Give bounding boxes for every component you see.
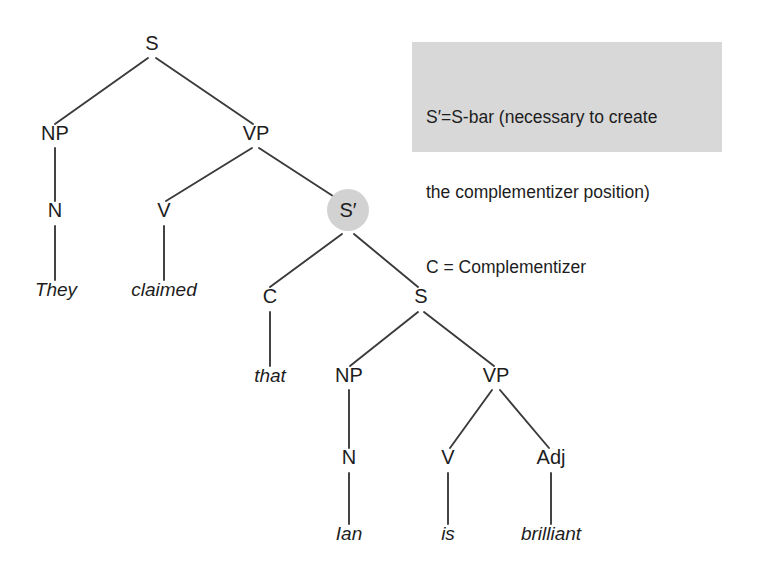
leaf-word-Ian: Ian <box>336 523 362 544</box>
node-NP1: NP <box>41 122 69 144</box>
branch-VP1-SBAR <box>259 148 336 198</box>
node-VP1: VP <box>243 122 270 144</box>
node-V1: V <box>157 199 171 221</box>
leaf-word-that: that <box>254 365 286 386</box>
branch-VP1-V1 <box>166 148 252 201</box>
node-N1: N <box>48 199 62 221</box>
legend-line-1: S′=S-bar (necessary to create <box>426 105 714 130</box>
node-SBAR: S′ <box>339 199 356 221</box>
leaf-word-is: is <box>441 523 455 544</box>
branch-VP2-V2 <box>450 390 492 448</box>
node-VP2: VP <box>483 364 510 386</box>
legend-line-3: C = Complementizer <box>426 255 714 280</box>
branch-S_root-NP1 <box>55 58 148 124</box>
branch-SBAR-S_emb <box>354 234 418 287</box>
branch-VP2-Adj1 <box>500 390 549 448</box>
node-Adj1: Adj <box>537 446 566 468</box>
node-C1: C <box>263 285 277 307</box>
branch-S_emb-NP2 <box>350 312 418 366</box>
legend-box: S′=S-bar (necessary to create the comple… <box>412 42 722 152</box>
leaf-word-They: They <box>35 279 79 300</box>
node-N2: N <box>342 446 356 468</box>
node-NP2: NP <box>335 364 363 386</box>
syntax-tree-figure: SNPVPNVS′TheyclaimedCSthatNPVPNVAdjIanis… <box>0 0 758 575</box>
node-V2: V <box>441 446 455 468</box>
leaf-word-claimed: claimed <box>131 279 198 300</box>
leaf-word-brilliant: brilliant <box>521 523 582 544</box>
node-S_root: S <box>145 32 158 54</box>
legend-text: S′=S-bar (necessary to create the comple… <box>426 55 714 330</box>
legend-line-2: the complementizer position) <box>426 180 714 205</box>
branch-S_root-VP1 <box>156 58 253 124</box>
branch-SBAR-C1 <box>270 234 342 287</box>
